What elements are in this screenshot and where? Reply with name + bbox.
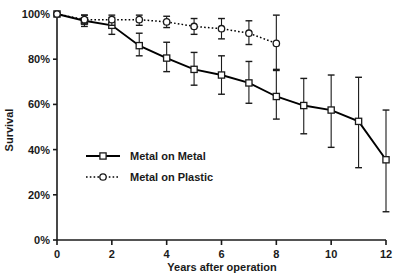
data-point-marker: [164, 55, 170, 61]
legend-label: Metal on Metal: [130, 150, 206, 162]
legend-item[interactable]: Metal on Metal: [86, 150, 206, 162]
data-point-marker: [81, 16, 87, 22]
data-point-marker: [218, 72, 224, 78]
data-point-marker: [246, 80, 252, 86]
x-tick-label: 10: [325, 248, 337, 260]
y-axis: 0%20%40%60%80%100%: [22, 8, 57, 246]
x-axis-title: Years after operation: [167, 261, 277, 273]
chart-figure: 0%20%40%60%80%100% 024681012 Survival Ye…: [0, 0, 396, 278]
legend-marker: [100, 153, 106, 159]
legend-marker: [100, 174, 106, 180]
x-tick-label: 12: [380, 248, 392, 260]
legend-label: Metal on Plastic: [130, 171, 213, 183]
data-series: [54, 11, 390, 212]
x-tick-label: 8: [273, 248, 279, 260]
chart-legend: Metal on MetalMetal on Plastic: [86, 150, 213, 183]
data-point-marker: [136, 43, 142, 49]
x-axis: 024681012: [54, 240, 392, 260]
x-tick-label: 2: [109, 248, 115, 260]
y-tick-label: 20%: [28, 189, 50, 201]
data-point-marker: [355, 118, 361, 124]
data-point-marker: [136, 16, 142, 22]
x-tick-label: 6: [218, 248, 224, 260]
legend-item[interactable]: Metal on Plastic: [86, 171, 213, 183]
data-point-marker: [109, 16, 115, 22]
data-point-marker: [383, 157, 389, 163]
y-tick-label: 80%: [28, 53, 50, 65]
x-tick-label: 4: [164, 248, 171, 260]
data-point-marker: [246, 30, 252, 36]
x-tick-label: 0: [54, 248, 60, 260]
data-point-marker: [191, 66, 197, 72]
data-point-marker: [301, 102, 307, 108]
y-tick-label: 0%: [34, 234, 50, 246]
data-point-marker: [328, 107, 334, 113]
y-tick-label: 40%: [28, 144, 50, 156]
survival-line-chart: 0%20%40%60%80%100% 024681012 Survival Ye…: [0, 0, 396, 278]
y-tick-label: 60%: [28, 98, 50, 110]
data-point-marker: [191, 23, 197, 29]
data-point-marker: [218, 25, 224, 31]
data-point-marker: [163, 19, 169, 25]
data-point-marker: [273, 40, 279, 46]
y-axis-title: Survival: [3, 109, 15, 152]
y-tick-label: 100%: [22, 8, 50, 20]
series-layer: [54, 11, 390, 212]
data-point-marker: [273, 93, 279, 99]
data-point-marker: [54, 11, 60, 17]
